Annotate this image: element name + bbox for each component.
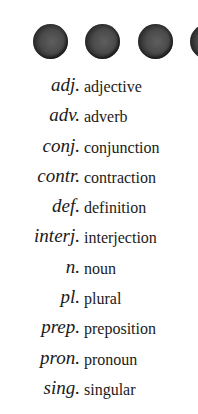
abbreviation: interj. — [34, 223, 80, 249]
term: conjunction — [84, 135, 160, 161]
term: interjection — [84, 225, 157, 251]
abbreviation: adv. — [49, 102, 80, 128]
list-item: prep. preposition — [0, 314, 198, 344]
term: plural — [84, 286, 121, 312]
term: noun — [84, 256, 116, 282]
abbreviation: contr. — [37, 163, 80, 189]
dot-icon — [190, 24, 198, 59]
abbreviation-list: adj. adjective adv. adverb conj. conjunc… — [0, 72, 198, 405]
abbreviation: sing. — [44, 375, 80, 401]
dot-icon — [33, 24, 68, 59]
abbreviation: def. — [52, 193, 80, 219]
abbreviation: n. — [66, 254, 80, 280]
term: definition — [84, 195, 146, 221]
dot-icon — [85, 24, 120, 59]
term: singular — [84, 377, 136, 403]
list-item: interj. interjection — [0, 223, 198, 253]
list-item: n. noun — [0, 254, 198, 284]
list-item: pl. plural — [0, 284, 198, 314]
term: adverb — [84, 104, 128, 130]
list-item: sing. singular — [0, 375, 198, 405]
list-item: adj. adjective — [0, 72, 198, 102]
list-item: def. definition — [0, 193, 198, 223]
list-item: conj. conjunction — [0, 133, 198, 163]
abbreviation: conj. — [43, 133, 80, 159]
term: adjective — [84, 74, 142, 100]
abbreviation: adj. — [51, 72, 80, 98]
term: preposition — [84, 316, 156, 342]
list-item: pron. pronoun — [0, 345, 198, 375]
abbreviation: prep. — [41, 314, 80, 340]
abbreviation: pl. — [60, 284, 80, 310]
term: contraction — [84, 165, 156, 191]
list-item: adv. adverb — [0, 102, 198, 132]
decorative-dots — [0, 24, 198, 60]
term: pronoun — [84, 347, 137, 373]
abbreviation: pron. — [40, 345, 80, 371]
dot-icon — [138, 24, 173, 59]
list-item: contr. contraction — [0, 163, 198, 193]
